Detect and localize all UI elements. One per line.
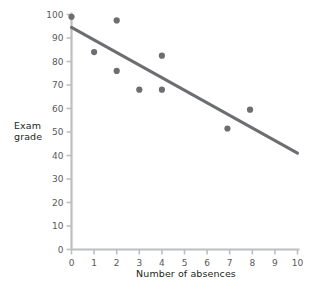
x-tick-label-6: 6 xyxy=(204,258,210,268)
x-tick-label-4: 4 xyxy=(159,258,165,268)
data-point xyxy=(159,87,165,93)
x-tick-label-0: 0 xyxy=(69,258,75,268)
x-tick-label-8: 8 xyxy=(249,258,255,268)
x-tick-label-3: 3 xyxy=(136,258,142,268)
data-point xyxy=(91,49,97,55)
y-axis-title: Exam grade xyxy=(14,120,66,142)
y-axis-title-line-2: grade xyxy=(14,131,66,142)
y-tick-label-100: 100 xyxy=(46,10,63,20)
x-tick-label-10: 10 xyxy=(292,258,304,268)
data-point xyxy=(136,87,142,93)
y-tick-label-90: 90 xyxy=(52,33,64,43)
y-tick-label-60: 60 xyxy=(52,104,64,114)
data-point xyxy=(159,53,165,59)
trend-line xyxy=(72,27,298,153)
x-tick-label-9: 9 xyxy=(272,258,278,268)
x-axis-tick-labels: 012345678910 xyxy=(69,258,304,268)
y-tick-label-40: 40 xyxy=(52,151,64,161)
y-tick-label-10: 10 xyxy=(52,221,64,231)
data-point xyxy=(114,68,120,74)
x-tick-label-2: 2 xyxy=(114,258,120,268)
scatter-plot-figure: 0102030405060708090100 012345678910 Exam… xyxy=(0,0,319,299)
y-tick-label-70: 70 xyxy=(52,80,64,90)
y-tick-label-80: 80 xyxy=(52,57,64,67)
y-tick-label-0: 0 xyxy=(58,245,64,255)
x-tick-label-7: 7 xyxy=(227,258,233,268)
x-tick-label-1: 1 xyxy=(91,258,97,268)
data-point xyxy=(247,107,253,113)
data-point xyxy=(224,125,230,131)
y-tick-label-30: 30 xyxy=(52,174,64,184)
x-axis-title: Number of absences xyxy=(96,268,276,279)
data-point xyxy=(68,14,74,20)
x-tick-label-5: 5 xyxy=(182,258,188,268)
data-point xyxy=(114,17,120,23)
y-tick-label-20: 20 xyxy=(52,198,64,208)
plot-area: 0102030405060708090100 012345678910 xyxy=(0,0,319,299)
y-axis-title-line-1: Exam xyxy=(14,120,66,131)
